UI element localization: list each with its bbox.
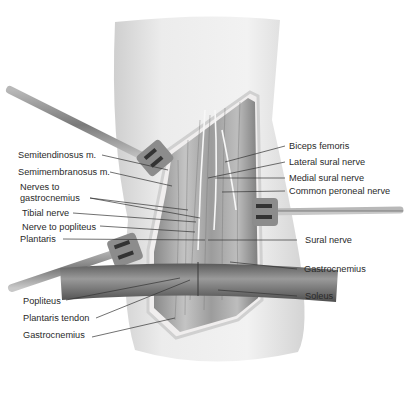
label-plantaris-tendon: Plantaris tendon: [23, 313, 89, 324]
label-soleus: Soleus: [305, 291, 333, 302]
label-popliteus: Popliteus: [23, 296, 61, 307]
label-common-peroneal-nerve: Common peroneal nerve: [289, 186, 390, 197]
label-sural-nerve: Sural nerve: [305, 235, 352, 246]
label-nerves-to-gastrocnemius: Nerves to gastrocnemius: [20, 182, 110, 204]
label-plantaris: Plantaris: [20, 234, 56, 245]
label-biceps-femoris: Biceps femoris: [289, 141, 349, 152]
label-lateral-sural-nerve: Lateral sural nerve: [289, 157, 365, 168]
label-nerve-to-popliteus: Nerve to popliteus: [22, 222, 96, 233]
label-tibial-nerve: Tibial nerve: [22, 208, 69, 219]
knee-illustration: [0, 0, 415, 411]
label-gastrocnemius-left: Gastrocnemius: [23, 330, 85, 341]
label-semitendinosus: Semitendinosus m.: [18, 150, 96, 161]
label-semimembranosus: Semimembranosus m.: [18, 167, 110, 178]
label-medial-sural-nerve: Medial sural nerve: [289, 173, 364, 184]
retractor-right: [252, 198, 400, 226]
label-gastrocnemius-right: Gastrocnemius: [304, 264, 366, 275]
